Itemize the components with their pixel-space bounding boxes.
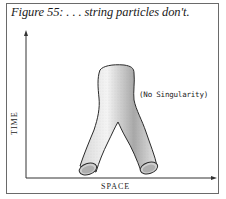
- x-axis-arrow-icon: [211, 176, 217, 180]
- x-axis-label: SPACE: [101, 182, 130, 191]
- y-axis-label: TIME: [10, 111, 19, 135]
- no-singularity-annotation: (No Singularity): [139, 90, 208, 99]
- y-axis-arrow-icon: [24, 30, 28, 36]
- string-worldsheet: [78, 65, 160, 177]
- pants-diagram: [0, 0, 226, 199]
